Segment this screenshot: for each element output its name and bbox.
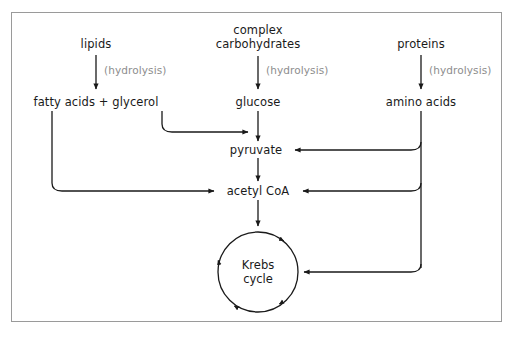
krebs-cycle-line1: Krebs: [242, 259, 274, 273]
label-hydrolysis-proteins: (hydrolysis): [429, 64, 491, 76]
node-glucose: glucose: [236, 96, 281, 109]
node-complex-carbohydrates: complex carbohydrates: [216, 24, 300, 51]
node-pyruvate: pyruvate: [230, 144, 282, 157]
label-hydrolysis-carbohydrates: (hydrolysis): [266, 64, 328, 76]
node-lipids: lipids: [81, 38, 112, 51]
node-krebs-cycle: Krebs cycle: [242, 259, 274, 286]
node-complex-carbohydrates-line2: carbohydrates: [216, 38, 300, 52]
label-hydrolysis-lipids: (hydrolysis): [104, 64, 166, 76]
node-complex-carbohydrates-line1: complex: [216, 24, 300, 38]
diagram-canvas: lipids complex carbohydrates proteins (h…: [0, 0, 515, 340]
node-fatty-acids-glycerol: fatty acids + glycerol: [34, 96, 159, 109]
node-acetyl-coa: acetyl CoA: [227, 185, 290, 198]
node-amino-acids: amino acids: [386, 96, 456, 109]
krebs-cycle-line2: cycle: [242, 273, 274, 287]
node-proteins: proteins: [397, 38, 445, 51]
